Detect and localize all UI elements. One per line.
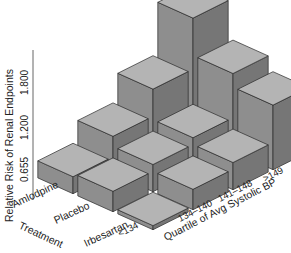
z-tick-label: 1.200 — [19, 115, 30, 140]
bar-chart-3d: Relative Risk of Renal Endpoints 1.800 1… — [0, 0, 291, 253]
treatment-label: Placebo — [52, 199, 92, 226]
z-tick-label: 0.655 — [19, 157, 30, 182]
treatment-label: Amlodpine — [10, 178, 60, 210]
z-tick-label: 1.800 — [19, 70, 30, 95]
